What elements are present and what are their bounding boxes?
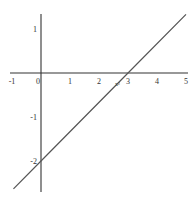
y-tick-label: -2 [30,157,37,166]
x-tick-label: -1 [9,77,16,86]
tick-labels: -10123451-1-2 [9,25,188,166]
x-tick-label: 2 [97,77,101,86]
x-tick-label: 4 [155,77,159,86]
annotations: x² [115,81,120,87]
annotation-label: x² [115,81,120,87]
plot-area: -10123451-1-2 x² [0,0,196,207]
x-tick-label: 3 [126,77,130,86]
series-line [13,14,186,189]
y-tick-label: -1 [30,113,37,122]
data-series [13,14,186,189]
x-tick-label: 1 [68,77,72,86]
x-tick-label: 0 [36,77,40,86]
x-tick-label: 5 [184,77,188,86]
y-tick-label: 1 [33,25,37,34]
